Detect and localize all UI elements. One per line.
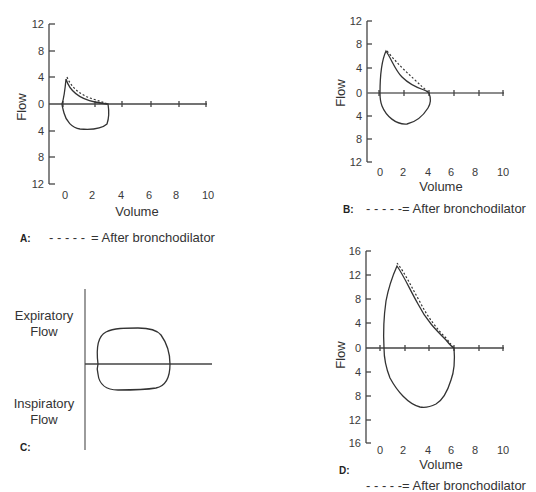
x-tick-label: 4 — [425, 166, 431, 178]
x-tick-label: 10 — [497, 166, 509, 178]
x-tick-label: 0 — [377, 444, 383, 456]
x-tick-label: 4 — [118, 189, 124, 201]
y-tick-label: 0 — [356, 87, 362, 99]
y-tick-label: 4 — [356, 110, 362, 122]
y-tick-label: 12 — [32, 178, 44, 190]
y-tick-label: 4 — [38, 71, 44, 83]
x-axis-title: Volume — [419, 179, 462, 194]
panel-d-after-bronchodilator — [397, 263, 454, 348]
y-tick-label: 4 — [355, 366, 361, 378]
x-tick-label: 2 — [400, 444, 406, 456]
legend-dash-symbol: - - - - - — [49, 230, 85, 245]
legend-dash-symbol: - - - - - — [366, 478, 402, 492]
legend-text: = After bronchodilator — [91, 230, 216, 245]
y-axis-title: Flow — [14, 93, 29, 121]
y-tick-label: 8 — [38, 151, 44, 163]
panel-b-after-bronchodilator — [387, 51, 429, 93]
panel-c-loop — [97, 328, 170, 390]
y-tick-label: 16 — [349, 245, 361, 257]
y-tick-label: 8 — [356, 133, 362, 145]
y-tick-label: 12 — [350, 15, 362, 27]
legend-text: = After bronchodilator — [402, 478, 527, 492]
y-tick-label: 12 — [350, 156, 362, 168]
y-tick-label: 0 — [355, 342, 361, 354]
y-tick-label: 4 — [355, 317, 361, 329]
y-tick-label: 12 — [349, 269, 361, 281]
x-tick-label: 10 — [497, 444, 509, 456]
x-tick-label: 8 — [472, 166, 478, 178]
y-tick-label: 8 — [38, 45, 44, 57]
panel-b: 12 8 4 0 4 8 12 0 2 4 6 8 10 Volume Flow… — [333, 15, 527, 216]
panel-d: 16 12 8 4 0 4 8 12 16 0 2 4 6 8 10 Volum… — [333, 245, 527, 492]
y-tick-label: 4 — [356, 62, 362, 74]
x-tick-label: 10 — [202, 189, 214, 201]
panel-b-loop — [380, 51, 430, 124]
panel-label-b: B: — [343, 204, 354, 215]
x-tick-label: 0 — [377, 166, 383, 178]
panel-label-c: C: — [20, 442, 31, 453]
y-axis-title: Flow — [333, 341, 348, 369]
legend-dash-symbol: - - - - - — [366, 201, 402, 216]
inspiratory-flow-label: Flow — [30, 412, 58, 427]
x-axis-title: Volume — [419, 457, 462, 472]
expiratory-flow-label: Expiratory — [15, 308, 74, 323]
x-tick-label: 4 — [425, 444, 431, 456]
x-tick-label: 6 — [448, 444, 454, 456]
expiratory-flow-label: Flow — [30, 324, 58, 339]
x-tick-label: 8 — [173, 189, 179, 201]
y-tick-label: 4 — [38, 125, 44, 137]
inspiratory-flow-label: Inspiratory — [14, 396, 75, 411]
x-tick-label: 2 — [400, 166, 406, 178]
x-tick-label: 6 — [448, 166, 454, 178]
panel-label-d: D: — [339, 465, 350, 476]
panel-c: Expiratory Flow Inspiratory Flow C: — [14, 289, 212, 453]
flow-volume-figure: 12 8 4 0 4 8 12 0 2 4 6 8 10 Volume Flow… — [0, 0, 536, 492]
y-tick-label: 12 — [349, 414, 361, 426]
y-tick-label: 8 — [355, 293, 361, 305]
x-tick-label: 2 — [89, 189, 95, 201]
y-tick-label: 16 — [349, 437, 361, 449]
x-tick-label: 8 — [472, 444, 478, 456]
y-tick-label: 0 — [38, 98, 44, 110]
panel-label-a: A: — [20, 233, 31, 244]
legend-text: = After bronchodilator — [402, 201, 527, 216]
panel-d-loop — [384, 266, 455, 407]
x-axis-title: Volume — [115, 204, 158, 219]
y-tick-label: 8 — [356, 38, 362, 50]
x-tick-label: 6 — [146, 189, 152, 201]
y-tick-label: 8 — [355, 390, 361, 402]
y-axis-title: Flow — [333, 79, 348, 107]
x-tick-label: 0 — [62, 189, 68, 201]
panel-a: 12 8 4 0 4 8 12 0 2 4 6 8 10 Volume Flow… — [14, 18, 216, 245]
y-tick-label: 12 — [32, 18, 44, 30]
